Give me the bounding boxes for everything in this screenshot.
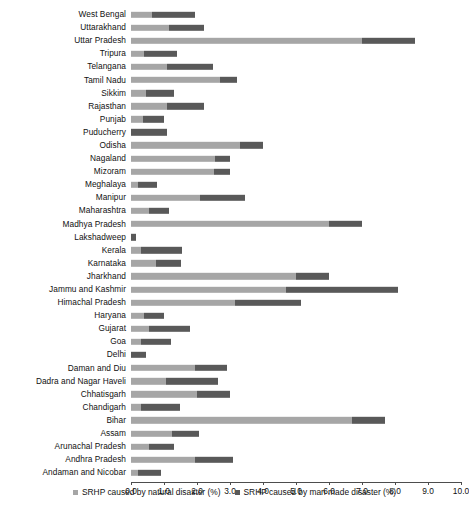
bar-row: Chandigarh [0, 401, 469, 414]
legend-item: SRHP caused by man made disaster (%) [235, 487, 397, 497]
bar-segment-manmade [141, 247, 182, 253]
bar-segment-natural [131, 116, 143, 122]
bar-segment-manmade [169, 24, 204, 30]
category-label: Uttar Pradesh [0, 36, 131, 45]
bar-segment-manmade [152, 11, 195, 17]
bar-segment-natural [131, 182, 138, 188]
bar-track [131, 375, 469, 388]
bar-segment-natural [131, 155, 215, 161]
bar-row: Karnataka [0, 257, 469, 270]
bar-segment-manmade [149, 208, 169, 214]
bar-segment-manmade [141, 404, 181, 410]
bar-track [131, 362, 469, 375]
x-axis-tick [131, 482, 132, 485]
bar-row: Meghalaya [0, 178, 469, 191]
bar-row: Odisha [0, 139, 469, 152]
category-label: Chhatisgarh [0, 390, 131, 399]
category-label: Maharashtra [0, 206, 131, 215]
bar-segment-natural [131, 365, 195, 371]
bar-segment-manmade [197, 391, 230, 397]
category-label: Chandigarh [0, 403, 131, 412]
bar-segment-manmade [200, 195, 245, 201]
category-label: Lakshadweep [0, 233, 131, 242]
bar-segment-natural [131, 391, 197, 397]
bar-segment-manmade [215, 155, 230, 161]
bar-row: Uttar Pradesh [0, 34, 469, 47]
bar-segment-natural [131, 417, 352, 423]
bar-track [131, 244, 469, 257]
category-label: Puducherry [0, 128, 131, 137]
bar-segment-manmade [143, 116, 164, 122]
bar-row: Sikkim [0, 87, 469, 100]
bar-row: Mizoram [0, 165, 469, 178]
bar-segment-manmade [195, 457, 233, 463]
category-label: Andaman and Nicobar [0, 468, 131, 477]
category-label: Sikkim [0, 89, 131, 98]
bar-segment-manmade [144, 313, 164, 319]
bar-segment-natural [131, 339, 141, 345]
x-axis-tick [428, 482, 429, 485]
bar-track [131, 296, 469, 309]
bar-segment-natural [131, 286, 286, 292]
bar-row: Haryana [0, 309, 469, 322]
bar-track [131, 165, 469, 178]
bar-segment-manmade [235, 299, 301, 305]
bar-segment-natural [131, 313, 144, 319]
category-label: Arunachal Pradesh [0, 442, 131, 451]
bar-segment-natural [131, 299, 235, 305]
x-axis-tick [362, 482, 363, 485]
bar-track [131, 414, 469, 427]
bar-segment-natural [131, 90, 146, 96]
category-label: Rajasthan [0, 102, 131, 111]
bar-segment-manmade [141, 339, 171, 345]
bar-track [131, 152, 469, 165]
legend-label: SRHP caused by man made disaster (%) [244, 487, 397, 497]
x-axis-tick [197, 482, 198, 485]
category-label: Dadra and Nagar Haveli [0, 377, 131, 386]
bar-segment-natural [131, 168, 214, 174]
bar-track [131, 191, 469, 204]
bar-track [131, 388, 469, 401]
category-label: West Bengal [0, 10, 131, 19]
bar-segment-natural [131, 273, 296, 279]
x-axis-tick [395, 482, 396, 485]
category-label: Odisha [0, 141, 131, 150]
bar-row: Kerala [0, 244, 469, 257]
bar-segment-manmade [195, 365, 226, 371]
bar-row: Dadra and Nagar Haveli [0, 375, 469, 388]
bar-row: Lakshadweep [0, 231, 469, 244]
bar-track [131, 401, 469, 414]
chart-legend: SRHP caused by natural disaster (%)SRHP … [0, 487, 469, 497]
bar-track [131, 126, 469, 139]
category-label: Manipur [0, 193, 131, 202]
bar-segment-natural [131, 77, 220, 83]
bar-segment-natural [131, 470, 138, 476]
category-label: Andhra Pradesh [0, 455, 131, 464]
category-label: Meghalaya [0, 180, 131, 189]
category-label: Daman and Diu [0, 364, 131, 373]
bar-segment-natural [131, 195, 200, 201]
bar-segment-natural [131, 64, 167, 70]
bar-segment-manmade [166, 378, 219, 384]
legend-label: SRHP caused by natural disaster (%) [82, 487, 221, 497]
bar-track [131, 335, 469, 348]
bar-track [131, 440, 469, 453]
bar-segment-manmade [296, 273, 329, 279]
bar-segment-manmade [138, 470, 161, 476]
bar-segment-manmade [156, 260, 181, 266]
bar-track [131, 257, 469, 270]
bar-segment-natural [131, 208, 149, 214]
bar-segment-manmade [149, 443, 174, 449]
x-axis-tick [164, 482, 165, 485]
bar-track [131, 348, 469, 361]
bar-segment-natural [131, 221, 329, 227]
bar-segment-manmade [131, 234, 136, 240]
bar-row: Jammu and Kashmir [0, 283, 469, 296]
bar-segment-manmade [220, 77, 237, 83]
bar-segment-manmade [149, 326, 190, 332]
bar-segment-natural [131, 430, 172, 436]
bar-row: Arunachal Pradesh [0, 440, 469, 453]
bar-row: Rajasthan [0, 100, 469, 113]
bar-track [131, 8, 469, 21]
bar-row: Chhatisgarh [0, 388, 469, 401]
